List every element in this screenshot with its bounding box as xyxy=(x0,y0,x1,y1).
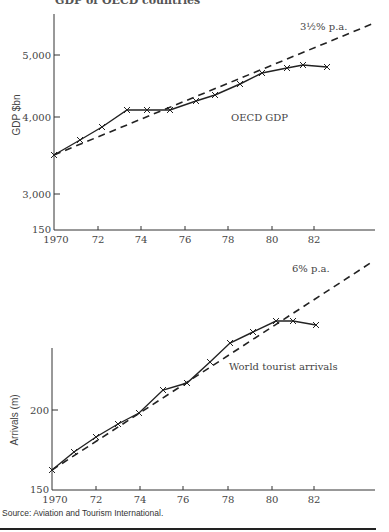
gdp-y-tick: 4,000 xyxy=(22,112,51,123)
gdp-y-axis-title: GDP $bn xyxy=(11,95,22,136)
gdp-chart: 5,000 4,000 3,000 150 1970 72 74 76 78 8… xyxy=(11,14,375,245)
arrivals-x-tick: 1970 xyxy=(42,494,67,505)
arrivals-x-tick: 74 xyxy=(134,494,147,505)
gdp-markers xyxy=(51,62,330,158)
arrivals-x-tick: 80 xyxy=(266,494,279,505)
gdp-trend-line xyxy=(54,24,372,155)
gdp-x-tick: 80 xyxy=(266,234,279,245)
arrivals-y-tick: 200 xyxy=(30,405,49,416)
gdp-series-line xyxy=(54,65,327,155)
arrivals-x-tick: 76 xyxy=(177,494,190,505)
arrivals-x-tick: 82 xyxy=(308,494,321,505)
arrivals-chart: 200 150 1970 72 74 76 78 80 82 Arrivals … xyxy=(9,262,375,505)
gdp-y-tick: 3,000 xyxy=(22,189,51,200)
arrivals-markers xyxy=(49,318,319,473)
gdp-x-tick: 78 xyxy=(222,234,235,245)
arrivals-y-axis-title: Arrivals (m) xyxy=(9,394,20,445)
gdp-x-tick: 72 xyxy=(92,234,105,245)
gdp-x-tick: 1970 xyxy=(43,234,68,245)
arrivals-series-label: World tourist arrivals xyxy=(229,361,338,372)
gdp-y-tick: 5,000 xyxy=(22,50,51,61)
gdp-x-tick: 74 xyxy=(135,234,148,245)
gdp-trend-label: 3½% p.a. xyxy=(300,21,347,32)
gdp-x-tick: 82 xyxy=(308,234,321,245)
gdp-x-tick: 76 xyxy=(179,234,192,245)
arrivals-series-line xyxy=(52,321,316,470)
gdp-series-label: OECD GDP xyxy=(231,112,288,123)
source-note: Source: Aviation and Tourism Internation… xyxy=(2,508,163,518)
arrivals-x-tick: 78 xyxy=(222,494,235,505)
arrivals-x-tick: 72 xyxy=(90,494,103,505)
charts-canvas: 5,000 4,000 3,000 150 1970 72 74 76 78 8… xyxy=(0,0,389,532)
bottom-rule xyxy=(0,528,376,530)
arrivals-trend-label: 6% p.a. xyxy=(292,263,330,274)
